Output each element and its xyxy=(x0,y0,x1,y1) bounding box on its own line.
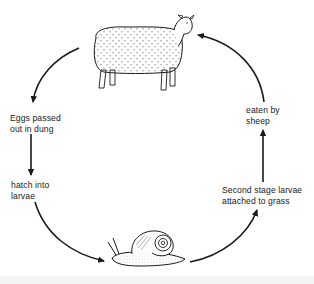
sheep-illustration xyxy=(94,15,194,90)
bottom-band xyxy=(0,276,314,284)
arrow-eaten-to-sheep xyxy=(198,35,264,102)
stage-label-eaten: eaten by sheep xyxy=(246,105,280,127)
stage-label-hatch: hatch into larvae xyxy=(11,180,49,202)
stage-label-eggs: Eggs passed out in dung xyxy=(10,113,61,135)
stage-label-second-stage: Second stage larvae attached to grass xyxy=(222,185,302,207)
arrow-snail-to-second-stage xyxy=(190,210,257,262)
life-cycle-diagram: Eggs passed out in dung hatch into larva… xyxy=(0,0,314,284)
snail-illustration xyxy=(108,231,185,266)
arrow-sheep-to-eggs xyxy=(33,48,79,102)
arrow-hatch-to-snail xyxy=(35,202,104,261)
